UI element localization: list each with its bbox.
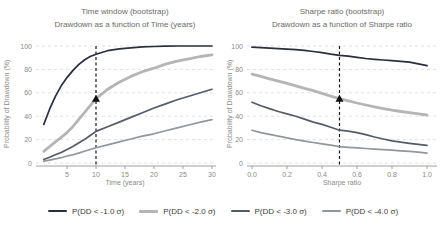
x-tick-label: 0.0 — [247, 171, 257, 178]
y-tick-label: 0 — [239, 160, 243, 167]
y-tick-label: 20 — [235, 136, 243, 143]
x-axis-label: Time (years) — [36, 179, 214, 186]
series-line — [44, 120, 212, 162]
legend-label: P(DD < -1.0 σ) — [72, 207, 124, 216]
y-tick-label: 80 — [24, 66, 32, 73]
x-tick-label: 0.4 — [317, 171, 327, 178]
x-tick-label: 0.8 — [387, 171, 397, 178]
sharpe-ratio-plot: 0204060801000.00.20.40.60.81.0 — [223, 0, 446, 200]
x-tick-label: 30 — [208, 171, 216, 178]
x-tick-label: 10 — [92, 171, 100, 178]
x-tick-label: 0.6 — [352, 171, 362, 178]
y-tick-label: 40 — [24, 113, 32, 120]
y-tick-label: 60 — [235, 89, 243, 96]
legend-item-dd-2sigma: P(DD < -2.0 σ) — [139, 207, 215, 216]
time-window-chart-panel: Time window (bootstrap) Drawdown as a fu… — [0, 0, 223, 200]
time-window-plot: 02040608010051015202530 — [0, 0, 223, 200]
x-tick-label: 15 — [121, 171, 129, 178]
sharpe-ratio-chart-panel: Sharpe ratio (bootstrap) Drawdown as a f… — [223, 0, 446, 200]
x-tick-label: 5 — [65, 171, 69, 178]
y-tick-label: 100 — [20, 43, 32, 50]
x-tick-label: 0.2 — [282, 171, 292, 178]
legend-line-swatch — [322, 210, 341, 212]
legend-line-swatch — [48, 210, 67, 212]
x-tick-label: 1.0 — [422, 171, 432, 178]
y-tick-label: 40 — [235, 113, 243, 120]
legend-label: P(DD < -2.0 σ) — [163, 207, 215, 216]
y-tick-label: 20 — [24, 136, 32, 143]
y-tick-label: 100 — [231, 43, 243, 50]
bootstrap-drawdown-figure: Time window (bootstrap) Drawdown as a fu… — [0, 0, 446, 227]
legend-line-swatch — [139, 210, 158, 213]
y-tick-label: 80 — [235, 66, 243, 73]
legend-label: P(DD < -3.0 σ) — [255, 207, 307, 216]
y-tick-label: 0 — [28, 160, 32, 167]
legend-item-dd-3sigma: P(DD < -3.0 σ) — [231, 207, 307, 216]
y-tick-label: 60 — [24, 89, 32, 96]
series-line — [44, 89, 212, 159]
legend-line-swatch — [231, 210, 250, 212]
legend: P(DD < -1.0 σ) P(DD < -2.0 σ) P(DD < -3.… — [0, 202, 446, 220]
legend-item-dd-1sigma: P(DD < -1.0 σ) — [48, 207, 124, 216]
x-tick-label: 25 — [179, 171, 187, 178]
x-axis-label: Sharpe ratio — [247, 179, 437, 186]
series-line — [44, 46, 212, 124]
legend-item-dd-4sigma: P(DD < -4.0 σ) — [322, 207, 398, 216]
legend-label: P(DD < -4.0 σ) — [346, 207, 398, 216]
x-tick-label: 20 — [150, 171, 158, 178]
